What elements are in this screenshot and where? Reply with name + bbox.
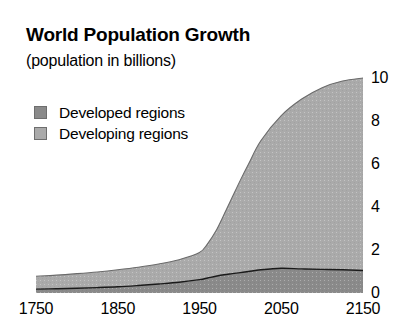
x-tick-label-2150: 2150: [346, 300, 380, 318]
y-tick-label-2: 2: [371, 241, 380, 259]
world-population-growth-chart: World Population Growth (population in b…: [0, 0, 402, 332]
area-chart-svg: [0, 0, 402, 332]
y-tick-label-0: 0: [371, 284, 380, 302]
plot-area: [0, 0, 402, 332]
series-layer: [36, 78, 363, 293]
x-tick-label-2050: 2050: [264, 300, 298, 318]
area-developing-regions-texture: [36, 78, 363, 289]
y-tick-label-10: 10: [371, 69, 388, 87]
x-tick-label-1750: 1750: [19, 300, 53, 318]
y-tick-label-6: 6: [371, 155, 380, 173]
y-tick-label-4: 4: [371, 198, 380, 216]
x-tick-label-1850: 1850: [101, 300, 135, 318]
x-tick-label-1950: 1950: [182, 300, 216, 318]
y-tick-label-8: 8: [371, 112, 380, 130]
